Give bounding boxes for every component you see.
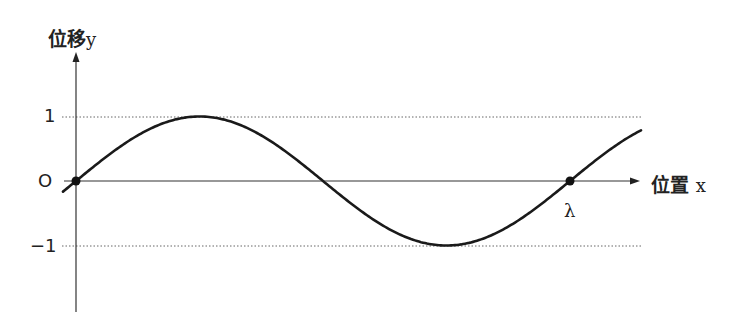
tick-label-plus1: 1 [44,105,55,126]
y-axis-arrow-icon [73,52,80,62]
x-axis-label: 位置 [651,174,689,196]
tick-label-minus1: −1 [30,235,57,256]
wave-diagram [0,0,744,328]
x-axis-title: 位置 x [651,170,706,197]
y-axis-label: 位移 [48,28,86,50]
x-axis-variable: x [696,175,706,196]
wavelength-label: λ [564,200,575,221]
origin-point [72,177,81,186]
y-axis-variable: y [86,29,96,50]
lambda-point [566,177,575,186]
y-axis-title: 位移y [48,24,96,51]
tick-label-origin: O [38,170,52,191]
x-axis-arrow-icon [630,178,640,185]
